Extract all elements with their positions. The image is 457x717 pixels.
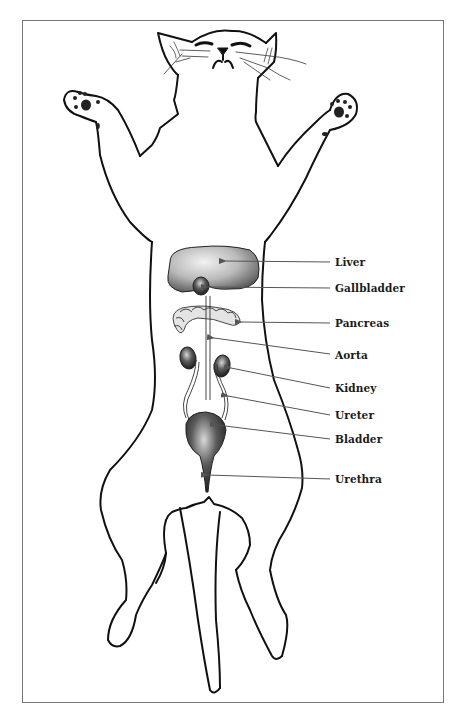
- right-arm: [278, 110, 330, 166]
- left-neck: [140, 75, 178, 156]
- leader-urethra: [208, 475, 330, 479]
- organs: [168, 246, 259, 492]
- right-main-pad: [334, 107, 344, 118]
- tail-tip: [210, 688, 220, 693]
- liver: [168, 246, 259, 292]
- right-kidney: [212, 354, 232, 378]
- left-arm-lower: [96, 122, 152, 242]
- right-eye: [232, 43, 250, 46]
- right-neck: [256, 78, 279, 166]
- nose: [218, 48, 228, 55]
- whiskers: [164, 50, 306, 80]
- left-main-pad: [81, 100, 91, 111]
- leader-kidney: [231, 368, 330, 388]
- leader-ureter: [228, 396, 330, 415]
- label-gallbladder: Gallbladder: [335, 282, 405, 294]
- cat-body-outline: [64, 30, 357, 692]
- paw-pads: [73, 91, 352, 136]
- label-pancreas: Pancreas: [335, 317, 389, 329]
- mouth: [213, 55, 233, 68]
- label-liver: Liver: [335, 256, 365, 268]
- torso-right: [236, 242, 303, 659]
- label-urethra: Urethra: [335, 473, 382, 485]
- torso-left: [100, 242, 166, 646]
- label-kidney: Kidney: [335, 382, 376, 394]
- label-aorta: Aorta: [335, 349, 368, 361]
- gallbladder: [193, 277, 209, 295]
- pelvis-top: [164, 497, 250, 570]
- pancreas: [173, 306, 240, 333]
- cat-anatomy-illustration: [0, 0, 457, 717]
- left-kidney: [178, 346, 198, 370]
- leader-pancreas: [242, 322, 330, 323]
- label-ureter: Ureter: [335, 409, 374, 421]
- leader-bladder: [217, 425, 330, 439]
- left-eye: [196, 43, 212, 45]
- bladder: [186, 412, 226, 492]
- right-arm-lower: [265, 130, 330, 242]
- cat-face: [164, 42, 306, 80]
- tail-right: [216, 512, 221, 688]
- label-bladder: Bladder: [335, 433, 382, 445]
- head-outline: [192, 30, 266, 43]
- tail-left: [180, 508, 210, 690]
- leader-aorta: [214, 338, 330, 354]
